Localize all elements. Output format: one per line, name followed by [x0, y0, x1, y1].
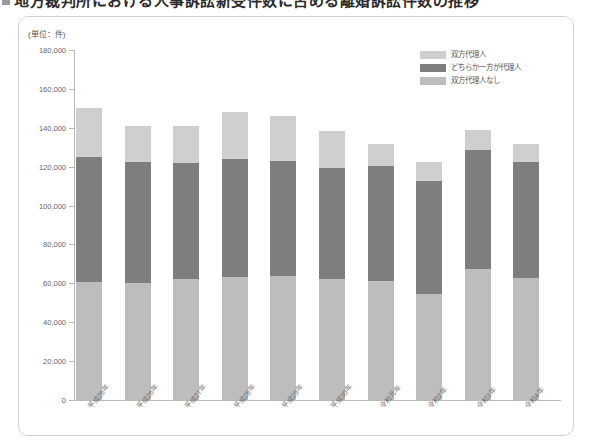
bar-segment-none — [173, 279, 199, 400]
bar-segment-both — [465, 130, 491, 150]
bar-segment-one — [513, 162, 539, 279]
x-axis-tick — [526, 401, 527, 405]
legend-item: 双方代理人なし — [420, 75, 521, 86]
bar-segment-one — [416, 181, 442, 294]
y-axis-tick — [69, 50, 74, 51]
y-axis-tick — [69, 206, 74, 207]
x-axis-tick — [381, 401, 382, 405]
y-axis-tick-label: 20,000 — [43, 357, 66, 366]
bar-segment-one — [319, 168, 345, 280]
y-axis-tick — [69, 244, 74, 245]
x-axis-tick — [332, 401, 333, 405]
bar-segment-one — [465, 150, 491, 269]
page-heading: 地方裁判所における人事訴訟新受件数に占める離婚訴訟件数の推移 — [0, 0, 593, 13]
bar-segment-both — [416, 162, 442, 181]
bar-segment-one — [76, 157, 102, 282]
bar-segment-none — [513, 278, 539, 400]
bar-segment-none — [319, 279, 345, 400]
bar-segment-one — [125, 162, 151, 284]
bar-segment-none — [125, 283, 151, 400]
y-axis-tick — [69, 89, 74, 90]
chart-page: 地方裁判所における人事訴訟新受件数に占める離婚訴訟件数の推移 (単位：件) 02… — [0, 0, 593, 446]
x-axis-tick — [89, 401, 90, 405]
bar-segment-none — [270, 276, 296, 400]
y-axis-tick-label: 180,000 — [39, 46, 66, 55]
bar-segment-both — [222, 112, 248, 159]
x-axis-tick — [478, 401, 479, 405]
y-axis-tick — [69, 361, 74, 362]
bar-segment-both — [173, 126, 199, 163]
legend-label: どちらか一方が代理人 — [451, 63, 521, 72]
y-axis-tick-label: 80,000 — [43, 240, 66, 249]
bar-segment-one — [270, 161, 296, 276]
x-axis-tick — [429, 401, 430, 405]
bar-segment-both — [319, 131, 345, 168]
x-axis-tick — [186, 401, 187, 405]
bar-segment-none — [368, 281, 394, 400]
page-title: 地方裁判所における人事訴訟新受件数に占める離婚訴訟件数の推移 — [14, 0, 479, 10]
legend-item: 双方代理人 — [420, 49, 521, 60]
plot-area — [74, 50, 560, 400]
y-axis-tick — [69, 128, 74, 129]
bar-segment-none — [465, 269, 491, 400]
legend-swatch — [420, 64, 446, 72]
bar-segment-none — [416, 294, 442, 400]
bar-segment-both — [368, 144, 394, 165]
bar-segment-one — [173, 163, 199, 280]
x-axis-tick — [235, 401, 236, 405]
y-axis-tick-label: 160,000 — [39, 84, 66, 93]
y-axis-tick-label: 60,000 — [43, 279, 66, 288]
bar-segment-none — [222, 277, 248, 400]
bar-segment-both — [125, 126, 151, 162]
y-axis-tick — [69, 283, 74, 284]
chart-legend: 双方代理人どちらか一方が代理人双方代理人なし — [420, 49, 521, 88]
y-axis-tick-label: 120,000 — [39, 162, 66, 171]
y-axis-tick — [69, 400, 74, 401]
legend-swatch — [420, 51, 446, 59]
bar-segment-both — [513, 144, 539, 162]
bar-segment-one — [368, 166, 394, 282]
legend-item: どちらか一方が代理人 — [420, 62, 521, 73]
bar-segment-both — [76, 108, 102, 157]
y-axis-tick-label: 0 — [62, 396, 66, 405]
legend-label: 双方代理人なし — [451, 76, 500, 85]
y-axis-tick — [69, 167, 74, 168]
y-axis-tick — [69, 322, 74, 323]
x-axis-tick — [138, 401, 139, 405]
bar-segment-both — [270, 116, 296, 161]
x-axis-tick — [283, 401, 284, 405]
y-axis-tick-label: 40,000 — [43, 318, 66, 327]
y-axis-labels: 020,00040,00060,00080,000100,000120,0001… — [0, 0, 66, 446]
legend-swatch — [420, 77, 446, 85]
bar-segment-one — [222, 159, 248, 277]
y-axis-tick-label: 140,000 — [39, 123, 66, 132]
bar-segment-none — [76, 282, 102, 400]
legend-label: 双方代理人 — [451, 50, 486, 59]
y-axis-tick-label: 100,000 — [39, 201, 66, 210]
